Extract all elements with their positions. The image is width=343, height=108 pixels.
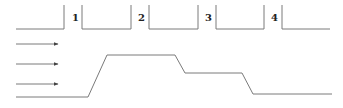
profile-line xyxy=(16,55,332,97)
gap-label-3: 3 xyxy=(205,12,212,23)
flow-diagram: 1 2 3 4 xyxy=(0,0,343,108)
top-segment-1 xyxy=(82,5,131,29)
gap-label-2: 2 xyxy=(138,12,145,23)
top-segment-3 xyxy=(216,5,264,29)
gap-label-1: 1 xyxy=(72,12,79,23)
top-segment-2 xyxy=(149,5,198,29)
gap-label-4: 4 xyxy=(271,12,278,23)
top-segment-0 xyxy=(16,5,64,29)
top-segment-4 xyxy=(282,5,330,29)
